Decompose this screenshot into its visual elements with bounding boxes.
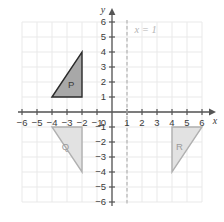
x-tick-label: 4 bbox=[169, 117, 174, 128]
triangle-r-label: R bbox=[176, 141, 183, 152]
coordinate-plane-figure: x = 1 PQR −6−5−4−3−2−1123456654321−1−2−3… bbox=[0, 0, 224, 222]
y-tick-label: −3 bbox=[95, 151, 106, 162]
triangle-q-label: Q bbox=[62, 141, 69, 152]
x-tick-label: −4 bbox=[47, 117, 58, 128]
x-axis-name: x bbox=[212, 115, 218, 126]
x-tick-label: −5 bbox=[32, 117, 43, 128]
x-tick-label: 2 bbox=[139, 117, 144, 128]
x-tick-label: 3 bbox=[154, 117, 159, 128]
y-tick-label: 3 bbox=[101, 61, 106, 72]
x-tick-label: 6 bbox=[199, 117, 204, 128]
y-tick-label: −5 bbox=[95, 181, 106, 192]
y-tick-label: −2 bbox=[95, 136, 106, 147]
y-tick-label: 2 bbox=[101, 76, 106, 87]
line-of-reflection-label: x = 1 bbox=[134, 24, 157, 35]
x-tick-label: −3 bbox=[62, 117, 73, 128]
y-tick-label: 4 bbox=[101, 46, 106, 57]
x-tick-label: 1 bbox=[124, 117, 129, 128]
y-tick-label: 1 bbox=[101, 91, 106, 102]
y-tick-label: −4 bbox=[95, 166, 106, 177]
x-tick-label: −2 bbox=[77, 117, 88, 128]
x-tick-label: −6 bbox=[17, 117, 28, 128]
y-tick-label: 6 bbox=[101, 16, 106, 27]
origin-label: 0 bbox=[101, 117, 106, 128]
coordinate-plane-svg: x = 1 PQR −6−5−4−3−2−1123456654321−1−2−3… bbox=[0, 0, 224, 222]
x-tick-label: 5 bbox=[184, 117, 189, 128]
y-tick-label: 5 bbox=[101, 31, 106, 42]
y-tick-label: −6 bbox=[95, 196, 106, 207]
y-axis-name: y bbox=[100, 4, 106, 15]
triangle-p-label: P bbox=[68, 79, 74, 90]
